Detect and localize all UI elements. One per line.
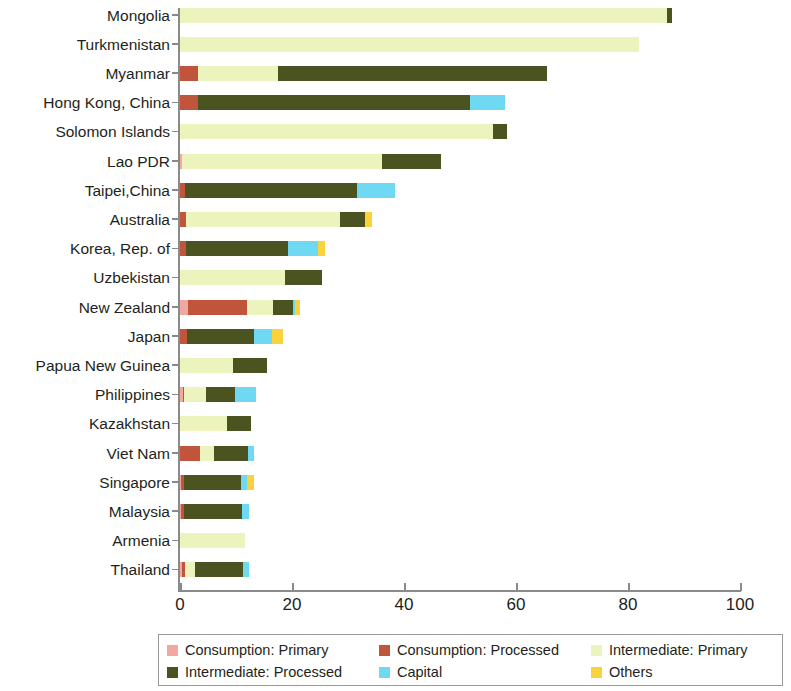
legend: Consumption: PrimaryConsumption: Process…	[158, 634, 783, 686]
category-label: Viet Nam	[0, 446, 170, 461]
value-axis-tick	[292, 583, 294, 591]
bar-segment	[180, 8, 667, 23]
bar-segment	[248, 446, 254, 461]
bar-row: Mongolia	[0, 8, 791, 23]
value-axis-line	[178, 590, 741, 592]
category-tick	[172, 160, 179, 162]
stacked-bar	[180, 124, 507, 139]
bar-segment	[254, 329, 272, 344]
category-label: Solomon Islands	[0, 124, 170, 139]
bar-segment	[182, 154, 381, 169]
bar-row: Hong Kong, China	[0, 95, 791, 110]
bar-segment	[273, 300, 293, 315]
bar-segment	[247, 475, 254, 490]
stacked-bar	[180, 270, 322, 285]
bar-row: Australia	[0, 212, 791, 227]
legend-swatch-icon	[379, 645, 390, 656]
category-tick	[172, 540, 179, 542]
bar-segment	[184, 504, 242, 519]
category-label: Japan	[0, 329, 170, 344]
category-tick	[172, 43, 179, 45]
stacked-bar	[180, 183, 395, 198]
category-label: New Zealand	[0, 300, 170, 315]
bar-segment	[667, 8, 672, 23]
legend-label: Others	[609, 664, 653, 680]
category-label: Myanmar	[0, 66, 170, 81]
bar-segment	[242, 504, 249, 519]
bar-segment	[180, 124, 493, 139]
category-label: Korea, Rep. of	[0, 241, 170, 256]
bar-segment	[180, 95, 198, 110]
category-tick	[172, 452, 179, 454]
bar-segment	[180, 300, 188, 315]
bar-segment	[187, 329, 254, 344]
legend-label: Intermediate: Primary	[609, 642, 748, 658]
bar-segment	[184, 475, 241, 490]
category-tick	[172, 423, 179, 425]
category-tick	[172, 14, 179, 16]
bar-segment	[180, 270, 285, 285]
value-axis-tick	[180, 583, 182, 591]
bar-row: Papua New Guinea	[0, 358, 791, 373]
bar-segment	[180, 446, 200, 461]
legend-item[interactable]: Others	[591, 664, 774, 680]
category-tick	[172, 394, 179, 396]
bar-segment	[184, 387, 205, 402]
legend-item[interactable]: Consumption: Processed	[379, 642, 591, 658]
category-label: Kazakhstan	[0, 416, 170, 431]
bar-segment	[185, 183, 357, 198]
legend-item[interactable]: Intermediate: Primary	[591, 642, 774, 658]
category-tick	[172, 510, 179, 512]
bar-segment	[180, 416, 227, 431]
stacked-bar	[180, 358, 267, 373]
stacked-bar-chart: MongoliaTurkmenistanMyanmarHong Kong, Ch…	[0, 0, 791, 691]
stacked-bar	[180, 475, 254, 490]
bar-segment	[243, 562, 249, 577]
legend-item[interactable]: Intermediate: Processed	[167, 664, 379, 680]
category-tick	[172, 277, 179, 279]
value-axis-tick-label: 40	[395, 595, 414, 615]
legend-swatch-icon	[167, 645, 178, 656]
category-tick	[172, 248, 179, 250]
bar-row: Solomon Islands	[0, 124, 791, 139]
stacked-bar	[180, 212, 372, 227]
value-axis-tick-label: 60	[507, 595, 526, 615]
bar-segment	[180, 533, 245, 548]
category-label: Taipei,China	[0, 183, 170, 198]
category-tick	[172, 72, 179, 74]
category-tick	[172, 102, 179, 104]
legend-item[interactable]: Consumption: Primary	[167, 642, 379, 658]
bar-segment	[340, 212, 365, 227]
legend-swatch-icon	[379, 667, 390, 678]
value-axis-tick	[404, 583, 406, 591]
bar-segment	[382, 154, 441, 169]
legend-item[interactable]: Capital	[379, 664, 591, 680]
bar-segment	[195, 562, 243, 577]
bar-row: Thailand	[0, 562, 791, 577]
bar-segment	[198, 95, 470, 110]
bar-row: Korea, Rep. of	[0, 241, 791, 256]
stacked-bar	[180, 387, 256, 402]
stacked-bar	[180, 154, 441, 169]
bar-segment	[186, 241, 288, 256]
bar-segment	[285, 270, 322, 285]
category-label: Mongolia	[0, 8, 170, 23]
bar-segment	[180, 66, 198, 81]
stacked-bar	[180, 8, 672, 23]
category-tick	[172, 131, 179, 133]
bar-segment	[278, 66, 547, 81]
bar-segment	[206, 387, 235, 402]
stacked-bar	[180, 533, 245, 548]
bar-segment	[365, 212, 372, 227]
category-tick	[172, 569, 179, 571]
bar-segment	[493, 124, 507, 139]
category-label: Singapore	[0, 475, 170, 490]
value-axis-tick-label: 80	[619, 595, 638, 615]
value-axis-tick	[740, 583, 742, 591]
category-label: Lao PDR	[0, 154, 170, 169]
stacked-bar	[180, 504, 249, 519]
bar-segment	[198, 66, 278, 81]
bar-segment	[470, 95, 505, 110]
stacked-bar	[180, 37, 639, 52]
legend-label: Consumption: Processed	[397, 642, 559, 658]
